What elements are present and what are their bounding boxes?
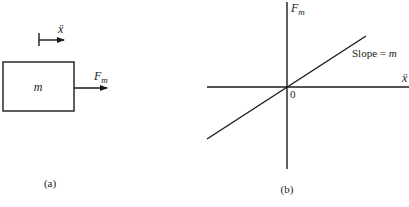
caption-a: (a) — [44, 177, 57, 190]
caption-b: (b) — [281, 183, 294, 196]
x-axis-label: ẍ — [401, 71, 408, 85]
origin-label: 0 — [290, 88, 296, 100]
panel-a: ẍ m Fm (a) — [3, 22, 108, 190]
figure-canvas: ẍ m Fm (a) Fm ẍ 0 Slope = m (b) — [0, 0, 409, 207]
force-label: Fm — [93, 69, 108, 85]
acceleration-arrow: ẍ — [39, 22, 64, 46]
force-arrow: Fm — [74, 69, 108, 88]
slope-annotation: Slope = m — [352, 47, 397, 59]
y-axis-label: Fm — [290, 1, 305, 17]
panel-b: Fm ẍ 0 Slope = m (b) — [207, 1, 409, 196]
acceleration-label: ẍ — [57, 22, 64, 36]
mass-label: m — [34, 80, 43, 94]
